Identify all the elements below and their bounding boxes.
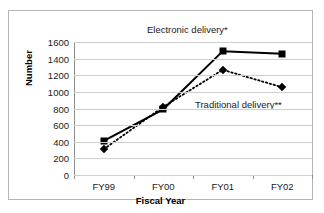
gridline <box>74 109 312 110</box>
y-axis-tick-labels: 02004006008001000120014001600 <box>29 42 69 175</box>
clipped-header-text: ...................... <box>0 0 324 8</box>
gridline <box>74 125 312 126</box>
x-axis-tick-label: FY00 <box>152 181 175 192</box>
data-point-marker <box>279 50 286 57</box>
gridline <box>74 92 312 93</box>
gridline <box>74 75 312 76</box>
gridline <box>74 59 312 60</box>
y-axis-tick-label: 400 <box>53 136 69 147</box>
gridline <box>74 175 312 176</box>
y-axis-tick-label: 1400 <box>48 53 69 64</box>
x-axis-title: Fiscal Year <box>9 195 312 206</box>
gridline <box>74 158 312 159</box>
y-axis-tick-label: 1600 <box>48 37 69 48</box>
series-line <box>104 51 283 141</box>
y-axis-tick-label: 200 <box>53 153 69 164</box>
gridline <box>74 42 312 43</box>
data-point-marker <box>219 48 226 55</box>
y-axis-tick-label: 800 <box>53 103 69 114</box>
series-label-electronic: Electronic delivery* <box>147 24 228 35</box>
figure-border: Number 02004006008001000120014001600 FY9… <box>8 10 313 200</box>
x-axis-tick <box>312 175 313 179</box>
y-axis-tick-label: 1000 <box>48 86 69 97</box>
x-axis-tick-label: FY02 <box>271 181 294 192</box>
y-axis-tick-label: 1200 <box>48 70 69 81</box>
x-axis-tick-label: FY99 <box>92 181 115 192</box>
gridline <box>74 142 312 143</box>
x-axis-tick-label: FY01 <box>211 181 234 192</box>
y-axis-tick-label: 600 <box>53 120 69 131</box>
y-axis-tick-label: 0 <box>64 170 69 181</box>
chart-figure: ...................... Number 0200400600… <box>0 0 324 213</box>
